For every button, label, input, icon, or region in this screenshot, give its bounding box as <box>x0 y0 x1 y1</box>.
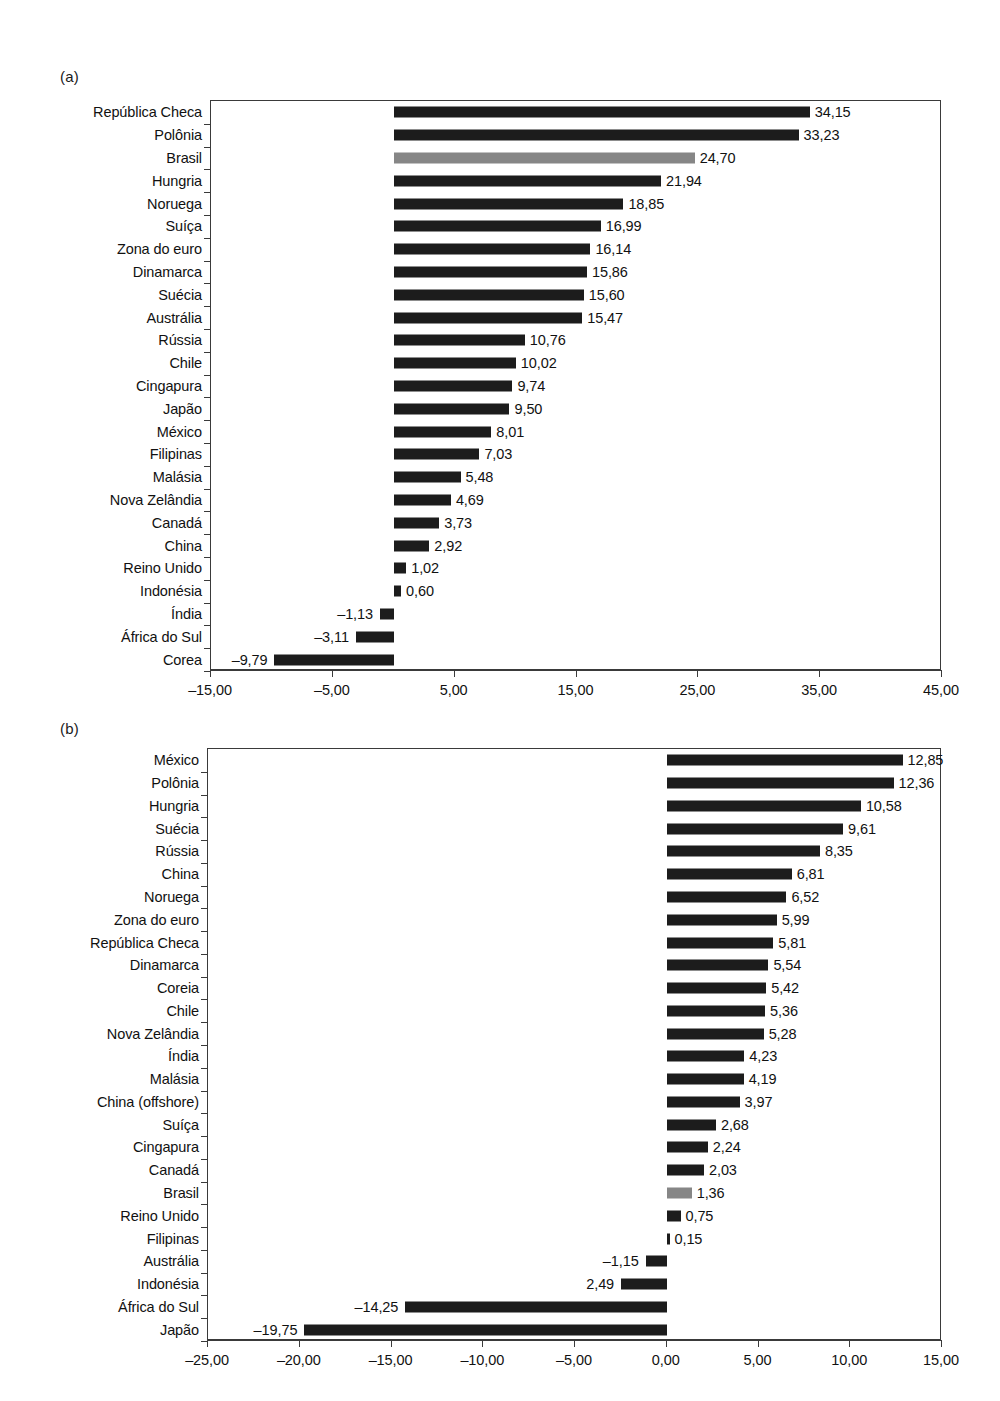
x-axis-tick-label: –20,00 <box>277 1352 321 1368</box>
x-axis-tick <box>454 670 455 677</box>
bar <box>667 1233 670 1244</box>
y-axis-category-label: Índia <box>171 606 202 622</box>
x-axis-tick-label: –25,00 <box>185 1352 229 1368</box>
x-axis-tick-label: –15,00 <box>369 1352 413 1368</box>
y-axis-category-label: Noruega <box>144 889 199 905</box>
y-axis-category-label: China <box>165 538 202 554</box>
bar <box>394 358 516 369</box>
chart-panel-a: (a) República Checa34,15Polônia33,23Bras… <box>0 0 1000 705</box>
bar-value-label: 21,94 <box>666 173 702 189</box>
y-axis-category-label: Japão <box>163 401 202 417</box>
bar <box>667 846 820 857</box>
y-axis-category-label: China (offshore) <box>97 1094 199 1110</box>
y-axis-tick <box>201 1182 208 1183</box>
y-axis-tick <box>201 1250 208 1251</box>
y-axis-category-label: Noruega <box>147 196 202 212</box>
bar-value-label: 7,03 <box>484 446 512 462</box>
bar-value-label: 5,42 <box>771 980 799 996</box>
y-axis-tick <box>204 147 211 148</box>
bar <box>394 517 439 528</box>
bar <box>667 778 894 789</box>
bar <box>667 1165 704 1176</box>
bar <box>667 1096 740 1107</box>
x-axis-tick-label: –5,00 <box>556 1352 592 1368</box>
x-axis-tick <box>391 1340 392 1347</box>
y-axis-tick <box>201 840 208 841</box>
bar-value-label: 0,15 <box>675 1231 703 1247</box>
bar <box>394 153 695 164</box>
y-axis-tick <box>204 534 211 535</box>
bar <box>304 1324 666 1335</box>
y-axis-category-label: Chile <box>169 355 202 371</box>
y-axis-tick <box>201 1068 208 1069</box>
panel-label-b: (b) <box>60 720 79 737</box>
y-axis-category-label: Hungria <box>149 798 199 814</box>
y-axis-tick <box>204 511 211 512</box>
bar <box>394 130 799 141</box>
bar-value-label: 3,97 <box>745 1094 773 1110</box>
bar-value-label: 4,69 <box>456 492 484 508</box>
y-axis-tick <box>201 863 208 864</box>
bar-value-label: 10,02 <box>521 355 557 371</box>
y-axis-tick <box>204 283 211 284</box>
y-axis-category-label: Cingapura <box>133 1139 199 1155</box>
bar-value-label: 2,24 <box>713 1139 741 1155</box>
y-axis-category-label: Canadá <box>149 1162 199 1178</box>
bar <box>394 244 591 255</box>
y-axis-tick <box>201 977 208 978</box>
y-axis-category-label: Malásia <box>153 469 202 485</box>
y-axis-category-label: Rússia <box>158 332 202 348</box>
y-axis-tick <box>204 329 211 330</box>
x-axis-tick-label: 5,00 <box>744 1352 772 1368</box>
bar <box>667 823 843 834</box>
bar-value-label: 10,76 <box>530 332 566 348</box>
bar <box>667 1142 708 1153</box>
bar-value-label: 24,70 <box>700 150 736 166</box>
y-axis-tick <box>201 908 208 909</box>
y-axis-category-label: Austrália <box>146 310 202 326</box>
x-axis-tick <box>758 1340 759 1347</box>
bar-value-label: 1,36 <box>697 1185 725 1201</box>
x-axis-tick <box>849 1340 850 1347</box>
bar-value-label: 12,36 <box>899 775 935 791</box>
y-axis-tick <box>201 1136 208 1137</box>
bar <box>667 1074 744 1085</box>
x-axis-tick <box>207 1340 208 1347</box>
x-axis-tick <box>941 670 942 677</box>
x-axis-tick-label: 25,00 <box>679 682 715 698</box>
y-axis-category-label: Polônia <box>154 127 202 143</box>
bar <box>394 312 582 323</box>
plot-area-b: México12,85Polônia12,36Hungria10,58Suéci… <box>207 748 941 1340</box>
bar-value-label: 0,75 <box>686 1208 714 1224</box>
bar <box>667 755 903 766</box>
bar <box>621 1279 667 1290</box>
bar-value-label: 15,60 <box>589 287 625 303</box>
y-axis-tick <box>204 261 211 262</box>
y-axis-category-label: Cingapura <box>136 378 202 394</box>
bar-value-label: 6,81 <box>797 866 825 882</box>
bar <box>394 221 601 232</box>
bar-value-label: 3,73 <box>444 515 472 531</box>
y-axis-tick <box>201 1295 208 1296</box>
y-axis-category-label: Austrália <box>143 1253 199 1269</box>
y-axis-tick <box>201 1273 208 1274</box>
y-axis-category-label: Índia <box>168 1048 199 1064</box>
y-axis-category-label: Suíça <box>165 218 202 234</box>
bar-value-label: –9,79 <box>232 652 268 668</box>
bar-value-label: –1,15 <box>603 1253 639 1269</box>
y-axis-category-label: Zona do euro <box>114 912 199 928</box>
bar-value-label: 15,47 <box>587 310 623 326</box>
bar-value-label: 2,92 <box>434 538 462 554</box>
x-axis-tick <box>941 1340 942 1347</box>
bar-value-label: 5,81 <box>778 935 806 951</box>
bar <box>667 983 766 994</box>
bar <box>667 892 787 903</box>
bar <box>667 1051 745 1062</box>
y-axis-tick <box>204 215 211 216</box>
bar <box>667 1005 765 1016</box>
y-axis-category-label: Coreia <box>157 980 199 996</box>
bar-value-label: 5,36 <box>770 1003 798 1019</box>
bar-value-label: –14,25 <box>355 1299 399 1315</box>
bar-value-label: 5,54 <box>773 957 801 973</box>
chart-panel-b: (b) México12,85Polônia12,36Hungria10,58S… <box>0 705 1000 1401</box>
